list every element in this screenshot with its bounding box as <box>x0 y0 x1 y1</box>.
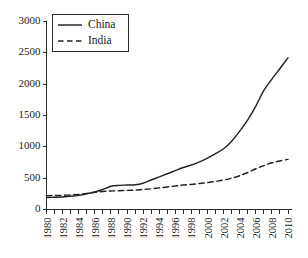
x-tick-label-1992: 1992 <box>138 218 149 239</box>
line-chart: 050010001500200025003000 198019821984198… <box>0 0 308 258</box>
y-axis: 050010001500200025003000 <box>19 14 47 214</box>
y-tick-label-2500: 2500 <box>19 45 42 57</box>
x-tick-label-1996: 1996 <box>170 218 181 239</box>
y-tick-label-1000: 1000 <box>19 139 42 151</box>
x-tick-label-1994: 1994 <box>154 217 165 239</box>
x-tick-label-1988: 1988 <box>106 218 117 239</box>
x-tick-group: 1980198219841986198819901992199419961998… <box>42 210 295 239</box>
x-tick-label-1980: 1980 <box>42 218 53 239</box>
y-tick-label-3000: 3000 <box>19 14 42 26</box>
x-tick-label-2002: 2002 <box>219 218 230 239</box>
series-line-china <box>47 58 289 198</box>
legend-label-india: India <box>88 34 112 46</box>
legend-label-china: China <box>88 18 115 30</box>
series-group <box>47 58 289 198</box>
chart-legend: China India <box>53 15 129 52</box>
y-tick-label-2000: 2000 <box>19 77 42 89</box>
x-tick-label-1982: 1982 <box>58 218 69 239</box>
x-tick-label-2004: 2004 <box>235 217 246 239</box>
series-line-india <box>47 159 289 195</box>
x-tick-label-1984: 1984 <box>74 217 85 239</box>
x-axis: 1980198219841986198819901992199419961998… <box>42 210 295 239</box>
y-tick-label-0: 0 <box>35 202 41 214</box>
x-tick-label-1986: 1986 <box>90 218 101 239</box>
chart-canvas: 050010001500200025003000 198019821984198… <box>0 0 308 258</box>
y-tick-label-1500: 1500 <box>19 108 42 120</box>
x-tick-label-2010: 2010 <box>283 218 294 239</box>
x-tick-label-1998: 1998 <box>186 218 197 239</box>
y-tick-label-500: 500 <box>24 171 41 183</box>
x-tick-label-1990: 1990 <box>122 218 133 239</box>
x-tick-label-2008: 2008 <box>267 218 278 239</box>
y-tick-group: 050010001500200025003000 <box>19 14 47 214</box>
x-tick-label-2000: 2000 <box>203 218 214 239</box>
x-tick-label-2006: 2006 <box>251 218 262 239</box>
